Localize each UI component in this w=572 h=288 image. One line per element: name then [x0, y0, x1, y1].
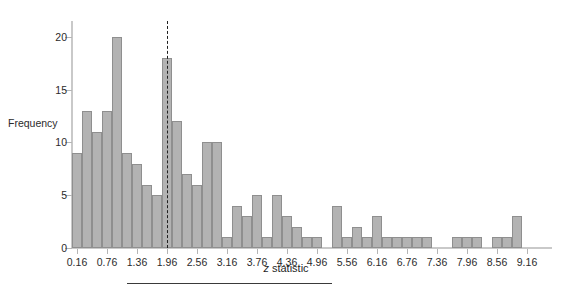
- histogram-bar: [262, 237, 272, 248]
- histogram-bar: [382, 237, 392, 248]
- histogram-bar: [462, 237, 472, 248]
- y-axis-title: Frequency: [8, 117, 58, 129]
- histogram-bar: [352, 227, 362, 248]
- x-tick-mark: [347, 249, 348, 254]
- histogram-bar: [332, 206, 342, 248]
- x-tick-mark: [527, 249, 528, 254]
- histogram-bar: [132, 164, 142, 248]
- histogram-bar: [492, 237, 502, 248]
- x-tick-mark: [497, 249, 498, 254]
- histogram-bar: [472, 237, 482, 248]
- x-tick-mark: [437, 249, 438, 254]
- histogram-bar: [302, 237, 312, 248]
- histogram-bar: [222, 237, 232, 248]
- histogram-bar: [512, 216, 522, 248]
- x-tick-mark: [197, 249, 198, 254]
- y-tick-label: 15: [55, 84, 67, 96]
- x-tick-mark: [377, 249, 378, 254]
- y-tick-label: 0: [61, 242, 67, 254]
- x-tick-mark: [407, 249, 408, 254]
- caption-rule: [127, 283, 332, 284]
- histogram-bar: [112, 37, 122, 248]
- histogram-bar: [172, 121, 182, 248]
- y-tick-label: 20: [55, 31, 67, 43]
- histogram-bar: [292, 227, 302, 248]
- x-axis-title-rest: statistic: [269, 262, 309, 274]
- histogram-bar: [92, 132, 102, 248]
- histogram-bar: [82, 111, 92, 248]
- histogram-bar: [362, 237, 372, 248]
- histogram-bar: [312, 237, 322, 248]
- histogram-figure: Frequency 05101520 0.160.761.361.962.563…: [0, 0, 572, 288]
- histogram-bar: [252, 195, 262, 248]
- histogram-bar: [412, 237, 422, 248]
- histogram-bar: [402, 237, 412, 248]
- histogram-bar: [152, 195, 162, 248]
- histogram-bar: [452, 237, 462, 248]
- x-tick-mark: [137, 249, 138, 254]
- y-tick-label: 5: [61, 189, 67, 201]
- x-tick-mark: [467, 249, 468, 254]
- x-tick-mark: [77, 249, 78, 254]
- histogram-bar: [142, 185, 152, 248]
- histogram-bar: [192, 185, 202, 248]
- histogram-bar: [372, 216, 382, 248]
- x-tick-mark: [227, 249, 228, 254]
- x-axis-title: z statistic: [0, 262, 572, 274]
- histogram-bar: [102, 111, 112, 248]
- x-tick-mark: [167, 249, 168, 254]
- histogram-bar: [392, 237, 402, 248]
- histogram-bar: [232, 206, 242, 248]
- histogram-bar: [422, 237, 432, 248]
- histogram-bar: [122, 153, 132, 248]
- histogram-bar: [72, 153, 82, 248]
- plot-area: 05101520: [72, 21, 552, 248]
- y-tick-label: 10: [55, 136, 67, 148]
- histogram-bar: [242, 216, 252, 248]
- histogram-bar: [342, 237, 352, 248]
- histogram-bar: [212, 142, 222, 248]
- histogram-bar: [202, 142, 212, 248]
- significance-threshold-line: [167, 21, 168, 248]
- x-tick-mark: [317, 249, 318, 254]
- histogram-bar: [182, 174, 192, 248]
- x-tick-mark: [257, 249, 258, 254]
- histogram-bar: [282, 216, 292, 248]
- histogram-bar: [272, 195, 282, 248]
- x-tick-mark: [107, 249, 108, 254]
- histogram-bar: [502, 237, 512, 248]
- x-tick-mark: [287, 249, 288, 254]
